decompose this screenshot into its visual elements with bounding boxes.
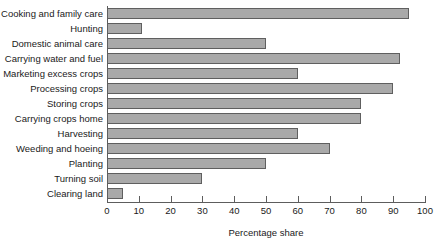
category-label: Carrying water and fuel xyxy=(0,51,103,66)
x-tick xyxy=(202,196,203,202)
bar xyxy=(107,158,266,169)
x-tick-label: 10 xyxy=(134,204,145,217)
category-axis-labels: Cooking and family careHuntingDomestic a… xyxy=(0,6,103,201)
x-tick xyxy=(107,196,108,202)
x-axis-title: Percentage share xyxy=(107,227,425,238)
category-label: Planting xyxy=(0,156,103,171)
bar xyxy=(107,83,393,94)
x-tick xyxy=(425,196,426,202)
bar-row xyxy=(107,36,425,51)
bar xyxy=(107,53,400,64)
bar xyxy=(107,173,202,184)
x-tick-label: 40 xyxy=(229,204,240,217)
bar-row xyxy=(107,21,425,36)
x-tick-label: 30 xyxy=(197,204,208,217)
x-axis-ticks xyxy=(107,196,425,203)
x-tick xyxy=(330,196,331,202)
bar-row xyxy=(107,141,425,156)
bar xyxy=(107,38,266,49)
x-tick-label: 100 xyxy=(417,204,433,217)
x-axis-tick-labels: 0102030405060708090100 xyxy=(107,204,425,218)
x-tick-label: 80 xyxy=(356,204,367,217)
category-label: Hunting xyxy=(0,21,103,36)
x-tick xyxy=(393,196,394,202)
category-label: Processing crops xyxy=(0,81,103,96)
x-tick-label: 60 xyxy=(293,204,304,217)
category-label: Marketing excess crops xyxy=(0,66,103,81)
category-label: Harvesting xyxy=(0,126,103,141)
category-label: Carrying crops home xyxy=(0,111,103,126)
x-tick xyxy=(139,196,140,202)
bar-row xyxy=(107,66,425,81)
x-tick-label: 70 xyxy=(324,204,335,217)
bar-row xyxy=(107,171,425,186)
x-tick xyxy=(266,196,267,202)
bar-row xyxy=(107,156,425,171)
x-tick-label: 90 xyxy=(388,204,399,217)
category-label: Clearing land xyxy=(0,186,103,201)
x-tick xyxy=(361,196,362,202)
category-label: Weeding and hoeing xyxy=(0,141,103,156)
plot-area xyxy=(107,6,425,201)
x-tick-label: 0 xyxy=(104,204,109,217)
x-tick-label: 50 xyxy=(261,204,272,217)
category-label: Turning soil xyxy=(0,171,103,186)
category-label: Cooking and family care xyxy=(0,6,103,21)
bar xyxy=(107,23,142,34)
bar-row xyxy=(107,81,425,96)
bar-row xyxy=(107,96,425,111)
bar xyxy=(107,68,298,79)
bar-chart: Cooking and family careHuntingDomestic a… xyxy=(0,0,437,244)
x-tick xyxy=(298,196,299,202)
bar xyxy=(107,98,361,109)
bar xyxy=(107,113,361,124)
bar-row xyxy=(107,51,425,66)
x-tick-label: 20 xyxy=(165,204,176,217)
bar xyxy=(107,8,409,19)
bar-rows xyxy=(107,6,425,201)
bar-row xyxy=(107,6,425,21)
category-label: Domestic animal care xyxy=(0,36,103,51)
x-tick xyxy=(171,196,172,202)
bar-row xyxy=(107,111,425,126)
x-tick xyxy=(234,196,235,202)
bar xyxy=(107,143,330,154)
bar xyxy=(107,128,298,139)
category-label: Storing crops xyxy=(0,96,103,111)
bar-row xyxy=(107,126,425,141)
